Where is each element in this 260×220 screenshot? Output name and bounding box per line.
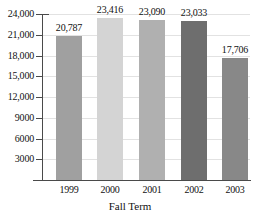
y-axis-label: 21,000	[8, 30, 34, 40]
y-axis-label: 3000	[15, 154, 34, 164]
y-axis-tick	[36, 35, 42, 36]
y-axis-line	[42, 14, 43, 180]
y-axis-tick	[36, 97, 42, 98]
y-axis-label: 15,000	[8, 71, 34, 81]
bar-value-label: 23,416	[89, 5, 131, 15]
x-axis-label: 2000	[90, 185, 130, 195]
bar	[181, 21, 207, 180]
bar	[97, 18, 123, 180]
y-axis-tick	[36, 159, 42, 160]
bar	[222, 58, 248, 180]
y-axis-tick	[36, 56, 42, 57]
y-axis-tick	[36, 14, 42, 15]
plot-area	[42, 14, 250, 180]
y-axis-label: 24,000	[8, 9, 34, 19]
bar	[56, 36, 82, 180]
x-axis-title: Fall Term	[0, 201, 260, 212]
x-axis-label: 1999	[49, 185, 89, 195]
y-axis-tick	[36, 76, 42, 77]
y-axis-tick	[36, 139, 42, 140]
x-axis-label: 2003	[215, 185, 255, 195]
x-axis-label: 2001	[132, 185, 172, 195]
bar-chart: 30006000900012,00015,00018,00021,00024,0…	[0, 0, 260, 220]
y-axis-label: 6000	[15, 134, 34, 144]
x-axis-label: 2002	[174, 185, 214, 195]
y-axis-label: 9000	[15, 113, 34, 123]
y-axis-tick	[36, 118, 42, 119]
bar	[139, 20, 165, 180]
y-axis-top-nub	[42, 14, 49, 15]
bar-value-label: 23,090	[131, 7, 173, 17]
bar-value-label: 17,706	[214, 45, 256, 55]
y-axis-label: 12,000	[8, 92, 34, 102]
y-axis-label: 18,000	[8, 51, 34, 61]
bar-value-label: 20,787	[48, 23, 90, 33]
x-axis-line	[33, 180, 251, 181]
bar-value-label: 23,033	[173, 8, 215, 18]
